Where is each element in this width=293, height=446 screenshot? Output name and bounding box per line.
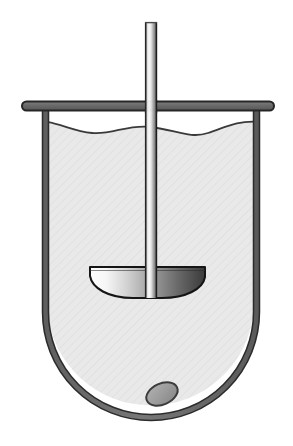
shaft-body — [145, 22, 157, 298]
stirrer-shaft — [145, 22, 157, 298]
shaft-rim-overlap — [145, 100, 157, 113]
shaft-through-rim — [145, 100, 157, 113]
vessel-diagram-canvas — [0, 0, 293, 446]
vessel-diagram: Stirred vessel with impeller Cross-secti… — [0, 0, 293, 446]
